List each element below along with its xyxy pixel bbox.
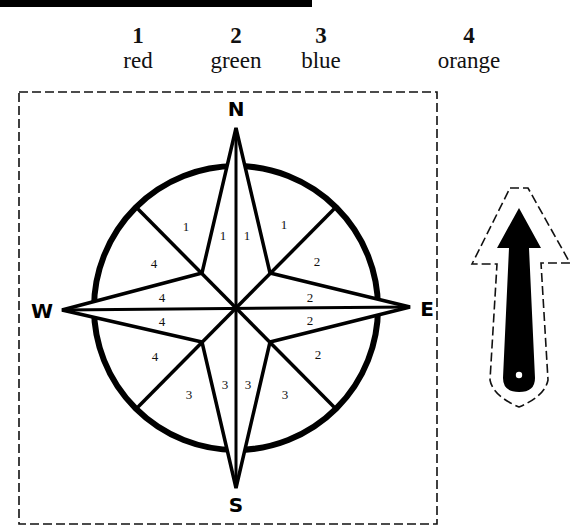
segment-label: 1 <box>220 228 227 243</box>
east-label: E <box>420 297 434 321</box>
segment-label: 2 <box>315 347 322 362</box>
north-label: N <box>228 97 245 121</box>
segment-label: 2 <box>307 313 314 328</box>
segment-label: 4 <box>152 349 159 364</box>
segment-label: 4 <box>159 290 166 305</box>
segment-label: 3 <box>222 377 229 392</box>
segment-label: 2 <box>307 290 314 305</box>
segment-label: 4 <box>151 256 158 271</box>
segment-label: 1 <box>244 228 251 243</box>
segment-label: 4 <box>159 314 166 329</box>
compass-diagram: N E S W 1 1 1 1 2 2 2 2 3 3 3 3 4 4 4 4 <box>0 0 587 530</box>
segment-label: 3 <box>186 387 193 402</box>
segment-label: 1 <box>183 219 190 234</box>
west-label: W <box>31 299 53 323</box>
segment-label: 1 <box>281 217 288 232</box>
segment-label: 3 <box>245 377 252 392</box>
arrow-pointer-icon <box>497 208 541 392</box>
segment-label: 3 <box>282 387 289 402</box>
arrow-pivot-hole <box>516 372 522 378</box>
segment-label: 2 <box>314 254 321 269</box>
south-label: S <box>229 493 243 517</box>
